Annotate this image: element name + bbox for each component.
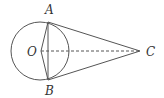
geometry-diagram: A B O C <box>0 0 164 98</box>
segment-oa <box>41 22 48 51</box>
segment-ob <box>41 51 48 80</box>
label-o: O <box>27 45 37 59</box>
segment-bc <box>48 51 140 80</box>
label-a: A <box>44 3 54 17</box>
segment-ac <box>48 22 140 51</box>
label-c: C <box>146 45 155 59</box>
label-b: B <box>44 84 54 98</box>
circle-o <box>11 22 69 80</box>
